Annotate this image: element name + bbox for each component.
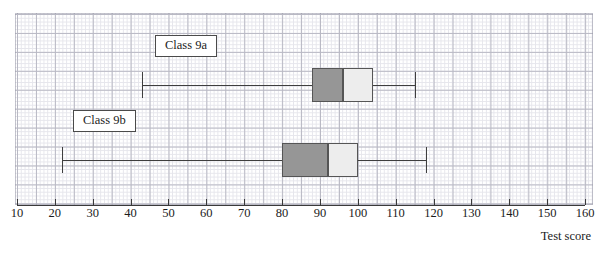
plot-area: 102030405060708090100110120130140150160 … (0, 0, 611, 255)
x-axis-tick (282, 199, 283, 205)
x-axis-tick (396, 199, 397, 205)
box-lower-quartile (312, 68, 342, 102)
x-axis-tick (55, 199, 56, 205)
box-upper-quartile (328, 143, 358, 177)
x-axis-tick (17, 199, 18, 205)
x-axis-tick-label: 30 (86, 207, 99, 220)
x-axis-tick (585, 199, 586, 205)
x-axis-tick-label: 60 (200, 207, 213, 220)
box-upper-quartile (343, 68, 373, 102)
x-axis-tick-label: 110 (387, 207, 405, 220)
x-axis-tick-label: 20 (49, 207, 62, 220)
x-axis-tick (547, 199, 548, 205)
x-axis-tick (131, 199, 132, 205)
x-axis-tick-label: 120 (424, 207, 443, 220)
whisker-cap-minimum (142, 72, 143, 98)
whisker-cap-maximum (415, 72, 416, 98)
x-axis-tick-label: 10 (11, 207, 24, 220)
x-axis-tick (244, 199, 245, 205)
x-axis-tick (434, 199, 435, 205)
x-axis-tick (358, 199, 359, 205)
whisker-cap-minimum (62, 147, 63, 173)
whisker-line-lower (62, 160, 282, 161)
x-axis-tick (471, 199, 472, 205)
whisker-line-lower (142, 85, 312, 86)
x-axis-tick-label: 90 (314, 207, 327, 220)
whisker-line-upper (373, 85, 415, 86)
x-axis-tick-label: 50 (162, 207, 175, 220)
x-axis-caption: Test score (541, 229, 591, 244)
x-axis-tick (168, 199, 169, 205)
box-plot-figure: 102030405060708090100110120130140150160 … (0, 0, 611, 255)
series-label-class-9b: Class 9b (73, 110, 136, 132)
x-axis-tick (206, 199, 207, 205)
x-axis-tick-label: 160 (576, 207, 595, 220)
x-axis-tick (509, 199, 510, 205)
x-axis-tick-label: 40 (124, 207, 137, 220)
whisker-line-upper (358, 160, 426, 161)
x-axis-tick-label: 80 (276, 207, 289, 220)
series-label-class-9a: Class 9a (155, 35, 217, 57)
box-lower-quartile (282, 143, 327, 177)
x-axis-tick-label: 140 (500, 207, 519, 220)
x-axis-tick-label: 130 (462, 207, 481, 220)
x-axis-tick-label: 70 (238, 207, 251, 220)
x-axis-tick-label: 150 (538, 207, 557, 220)
x-axis-tick (320, 199, 321, 205)
x-axis-tick (93, 199, 94, 205)
whisker-cap-maximum (426, 147, 427, 173)
x-axis-tick-label: 100 (348, 207, 367, 220)
